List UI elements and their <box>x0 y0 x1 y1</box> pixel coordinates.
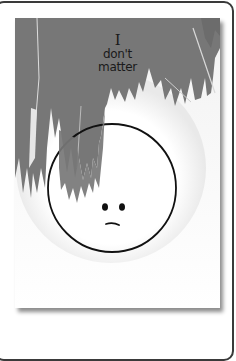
caption-text: I don't matter <box>15 33 220 74</box>
caption-line-1: I <box>15 33 220 48</box>
left-eye <box>102 203 108 211</box>
right-eye <box>119 203 125 211</box>
illustration-card: I don't matter <box>15 18 220 308</box>
caption-line-3: matter <box>15 61 220 74</box>
